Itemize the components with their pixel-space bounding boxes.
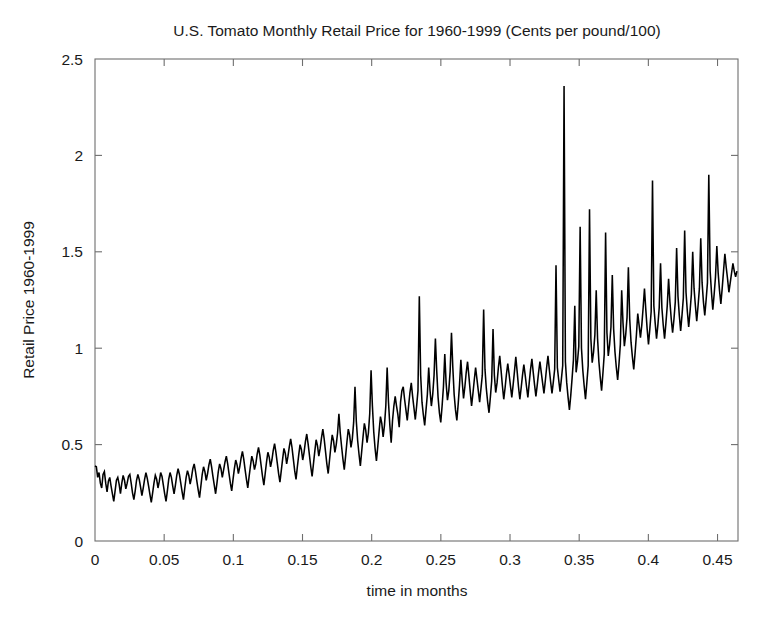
y-tick-label: 1.5: [61, 243, 83, 260]
x-tick-label: 0.25: [426, 551, 456, 568]
x-tick-label: 0.35: [564, 551, 594, 568]
y-tick-label: 1: [74, 340, 83, 357]
chart-figure: U.S. Tomato Monthly Retail Price for 196…: [0, 0, 776, 626]
y-axis-label: Retail Price 1960-1999: [20, 221, 37, 379]
x-tick-label: 0.3: [499, 551, 521, 568]
chart-title: U.S. Tomato Monthly Retail Price for 196…: [173, 22, 660, 39]
chart-background: [0, 0, 776, 626]
x-tick-label: 0.2: [361, 551, 383, 568]
x-tick-label: 0.15: [287, 551, 317, 568]
y-tick-label: 2.5: [61, 51, 83, 68]
x-tick-label: 0.45: [702, 551, 732, 568]
line-chart: U.S. Tomato Monthly Retail Price for 196…: [0, 0, 776, 626]
x-tick-label: 0.1: [223, 551, 245, 568]
x-tick-label: 0.4: [638, 551, 660, 568]
x-tick-label: 0: [91, 551, 100, 568]
x-axis-label: time in months: [367, 582, 468, 599]
y-tick-label: 0.5: [61, 436, 83, 453]
y-tick-label: 2: [74, 147, 83, 164]
x-tick-label: 0.05: [149, 551, 179, 568]
y-tick-label: 0: [74, 533, 83, 550]
